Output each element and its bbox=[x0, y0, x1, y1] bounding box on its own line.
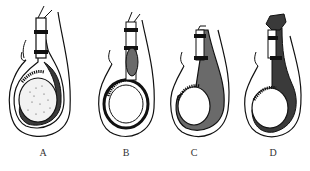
figure-c bbox=[162, 0, 237, 145]
figure-a-label: A bbox=[33, 147, 53, 158]
figure-b-drawing bbox=[92, 0, 162, 145]
figure-d-drawing bbox=[238, 0, 310, 145]
figure-b-label: B bbox=[116, 147, 136, 158]
figure-c-label: C bbox=[184, 147, 204, 158]
figure-b bbox=[92, 0, 162, 145]
figure-d bbox=[238, 0, 310, 145]
figure-d-label: D bbox=[263, 147, 283, 158]
figure-a-drawing bbox=[0, 0, 80, 145]
figure-c-drawing bbox=[162, 0, 237, 145]
figure-a bbox=[0, 0, 80, 145]
